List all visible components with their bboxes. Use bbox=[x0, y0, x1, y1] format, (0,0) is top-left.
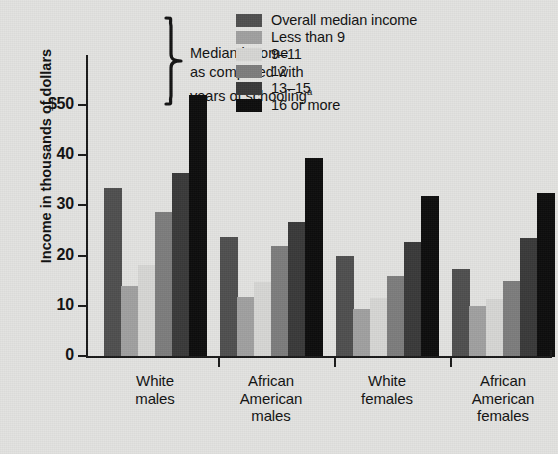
x-axis-category-label-line: African bbox=[438, 372, 558, 390]
x-axis-category-label-line: females bbox=[322, 390, 452, 408]
legend-item-label: Overall median income bbox=[271, 12, 417, 29]
x-axis-category-label-line: males bbox=[90, 390, 220, 408]
y-axis-tick bbox=[78, 104, 87, 106]
bar[interactable] bbox=[305, 158, 323, 357]
x-axis-category-label-line: American bbox=[206, 390, 336, 408]
legend-item-label: 13–15 bbox=[271, 80, 311, 97]
bar[interactable] bbox=[503, 281, 521, 357]
bar[interactable] bbox=[387, 276, 405, 357]
bar[interactable] bbox=[520, 238, 538, 357]
x-axis-category-label-line: White bbox=[322, 372, 452, 390]
y-axis-line bbox=[86, 55, 88, 358]
y-axis-tick bbox=[78, 355, 87, 357]
bar[interactable] bbox=[254, 282, 272, 357]
bar[interactable] bbox=[220, 237, 238, 357]
y-axis-tick-label: 10 bbox=[26, 296, 74, 314]
legend-swatch bbox=[236, 48, 262, 61]
bar[interactable] bbox=[172, 173, 190, 357]
x-axis-group-tick bbox=[334, 358, 336, 367]
bar[interactable] bbox=[121, 286, 139, 357]
bar[interactable] bbox=[237, 297, 255, 357]
legend-swatch bbox=[236, 99, 262, 112]
bar[interactable] bbox=[452, 269, 470, 357]
chart-legend: Overall median incomeLess than 99–111213… bbox=[236, 12, 417, 114]
legend-swatch bbox=[236, 82, 262, 95]
bar[interactable] bbox=[155, 212, 173, 357]
legend-item[interactable]: 12 bbox=[236, 63, 417, 80]
legend-item-label: 16 or more bbox=[271, 97, 340, 114]
x-axis-right-tick bbox=[550, 350, 552, 358]
bar[interactable] bbox=[336, 256, 354, 357]
bar[interactable] bbox=[353, 309, 371, 357]
x-axis-category-label-line: White bbox=[90, 372, 220, 390]
bar[interactable] bbox=[404, 242, 422, 357]
x-axis-category-label-line: females bbox=[438, 407, 558, 425]
y-axis-tick-label: 0 bbox=[26, 346, 74, 364]
legend-item[interactable]: 9–11 bbox=[236, 46, 417, 63]
legend-item[interactable]: 13–15 bbox=[236, 80, 417, 97]
bar[interactable] bbox=[537, 193, 555, 357]
bar[interactable] bbox=[421, 196, 439, 357]
legend-item-label: Less than 9 bbox=[271, 29, 345, 46]
legend-item-label: 9–11 bbox=[271, 46, 302, 63]
y-axis-tick bbox=[78, 154, 87, 156]
bar[interactable] bbox=[189, 95, 207, 357]
y-axis-tick bbox=[78, 255, 87, 257]
x-axis-category-label-line: males bbox=[206, 407, 336, 425]
legend-item-label: 12 bbox=[271, 63, 287, 80]
legend-swatch bbox=[236, 14, 262, 27]
legend-item[interactable]: 16 or more bbox=[236, 97, 417, 114]
x-axis-category-label-line: American bbox=[438, 390, 558, 408]
bar[interactable] bbox=[469, 306, 487, 357]
legend-item[interactable]: Less than 9 bbox=[236, 29, 417, 46]
y-axis-tick bbox=[78, 204, 87, 206]
x-axis-group-tick bbox=[450, 358, 452, 367]
bar[interactable] bbox=[104, 188, 122, 357]
y-axis-title: Income in thousands of dollars bbox=[38, 26, 54, 286]
bar[interactable] bbox=[271, 246, 289, 357]
y-axis-tick bbox=[78, 305, 87, 307]
x-axis-category-label: Whitemales bbox=[90, 372, 220, 407]
x-axis-category-label-line: African bbox=[206, 372, 336, 390]
x-axis-category-label: AfricanAmericanfemales bbox=[438, 372, 558, 425]
bar[interactable] bbox=[486, 299, 504, 357]
x-axis-category-label: Whitefemales bbox=[322, 372, 452, 407]
legend-swatch bbox=[236, 31, 262, 44]
x-axis-group-tick bbox=[218, 358, 220, 367]
bar[interactable] bbox=[288, 222, 306, 357]
bar-chart: Overall median incomeLess than 99–111213… bbox=[0, 0, 558, 454]
legend-item[interactable]: Overall median income bbox=[236, 12, 417, 29]
x-axis-category-label: AfricanAmericanmales bbox=[206, 372, 336, 425]
x-axis-line bbox=[86, 356, 552, 358]
bar[interactable] bbox=[138, 265, 156, 357]
bar[interactable] bbox=[370, 298, 388, 357]
legend-swatch bbox=[236, 65, 262, 78]
